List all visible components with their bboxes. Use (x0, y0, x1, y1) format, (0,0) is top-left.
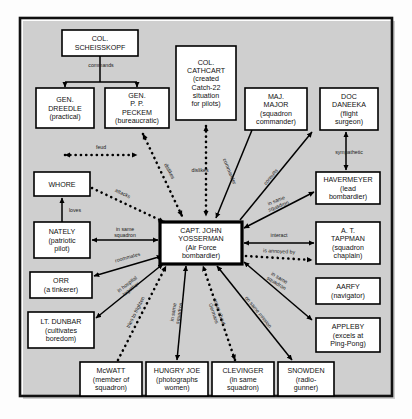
node-aarfy[interactable]: AARFY(navigator) (316, 278, 380, 304)
node-label-line: GEN. (56, 96, 73, 104)
node-snowden[interactable]: SNOWDEN(radio-gunner) (278, 362, 334, 396)
edge-label-line: dislikes (191, 167, 208, 173)
node-label-line: (member of (93, 376, 129, 384)
node-label-line: (squadron (332, 244, 364, 252)
node-label-line: (in same (229, 376, 256, 384)
node-yossarian[interactable]: CAPT. JOHNYOSSERMAN(Air Forcebombardier) (160, 222, 242, 264)
node-label-line: TAPPMAN (331, 235, 365, 243)
node-label-line: SNOWDEN (287, 367, 324, 375)
node-label-line: (created (193, 75, 219, 83)
node-label-line: (radio- (296, 376, 317, 384)
node-label-line: AARFY (336, 283, 360, 291)
node-label-line: YOSSERMAN (178, 235, 223, 243)
node-label-line: McWATT (97, 367, 126, 375)
node-label-line: DOC (341, 93, 357, 101)
node-label-line: surgeon) (335, 118, 363, 126)
node-label-line: bombardier) (182, 252, 220, 260)
node-clevinger[interactable]: CLEVINGER(in samesquadron) (212, 362, 274, 396)
node-label-line: MAJOR (264, 101, 289, 109)
node-label-line: (practical) (49, 113, 80, 121)
node-label-line: COL. (92, 35, 109, 43)
node-dunbar[interactable]: LT. DUNBAR(cultivatesboredom) (28, 312, 94, 348)
node-label-line: squadron) (227, 384, 259, 392)
node-label-line: DANEEKA (332, 101, 366, 109)
node-tappman[interactable]: A. T.TAPPMAN(squadronchaplain) (316, 222, 380, 264)
node-label-line: Catch-22 (192, 84, 221, 92)
node-label-line: bombardier) (329, 193, 367, 201)
node-label-line: DREEDLE (48, 105, 82, 113)
node-appleby[interactable]: APPLEBY(excels atPing-Pong) (316, 318, 380, 352)
node-label-line: (a tinkerer) (44, 286, 78, 294)
node-label-line: PECKEM (122, 109, 152, 117)
node-whore[interactable]: WHORE (34, 172, 90, 196)
node-hungryjoe[interactable]: HUNGRY JOE(photographswomen) (146, 362, 208, 396)
node-cathcart[interactable]: COL.CATHCART(createdCatch-22situationfor… (176, 46, 236, 120)
node-label-line: chaplain) (334, 252, 363, 260)
node-peckem[interactable]: GEN.P. P.PECKEM(bureaucratic) (105, 88, 169, 128)
node-label-line: (flight (340, 110, 357, 118)
edge-label-line: squadron (114, 232, 136, 238)
edge-label-line: loves (69, 207, 82, 213)
node-label-line: CLEVINGER (223, 367, 264, 375)
tree-edge-label: commands (88, 62, 114, 68)
node-label-line: GEN. (128, 92, 145, 100)
node-label-line: ORR (53, 277, 69, 285)
node-label-line: for pilots) (191, 100, 220, 108)
node-label-line: (photographs (156, 376, 198, 384)
edge-label-line: interact (270, 232, 288, 238)
node-havermeyer[interactable]: HAVERMEYER(leadbombardier) (316, 172, 380, 204)
node-label-line: MAJ. (268, 93, 284, 101)
node-label-line: commander) (256, 118, 296, 126)
node-label-line: (lead (340, 185, 356, 193)
node-dreedle[interactable]: GEN.DREEDLE(practical) (36, 88, 94, 128)
node-label-line: LT. DUNBAR (41, 318, 82, 326)
node-majmajor[interactable]: MAJ.MAJOR(squadroncommander) (245, 88, 307, 130)
node-label-line: COL. (198, 59, 215, 67)
node-label-line: HUNGRY JOE (154, 367, 201, 375)
node-label-line: Ping-Pong) (330, 340, 366, 348)
edge-label-feud: feud (96, 144, 106, 150)
node-label-line: women) (163, 384, 189, 392)
edge-label-line: feud (96, 144, 106, 150)
node-label-line: P. P. (130, 100, 144, 108)
node-label-line: A. T. (341, 227, 355, 235)
node-label-line: (patriotic (48, 237, 76, 245)
edge-label-line: sympathetic (335, 149, 363, 155)
node-scheisskopf[interactable]: COL.SCHEISSKOPF (62, 30, 138, 56)
node-orr[interactable]: ORR(a tinkerer) (30, 272, 92, 298)
node-label-line: WHORE (48, 181, 75, 189)
node-label-line: HAVERMEYER (323, 176, 372, 184)
node-mcwatt[interactable]: McWATT(member ofsquadron) (80, 362, 142, 396)
node-daneeka[interactable]: DOCDANEEKA(flightsurgeon) (320, 88, 378, 130)
node-label-line: (Air Force (185, 244, 216, 252)
node-label-line: pilot) (54, 245, 69, 253)
node-label-line: situation (193, 92, 219, 100)
node-label-line: NATELY (49, 228, 76, 236)
node-label-line: (bureaucratic) (115, 117, 159, 125)
diagram-canvas: commands feuddislikesdislikesattackslove… (0, 0, 412, 419)
edge-label-tappman-interact: interact (270, 232, 288, 238)
node-label-line: (squadron (260, 110, 292, 118)
edge-label-cathcart-dislikes: dislikes (191, 167, 208, 173)
node-label-line: (cultivates (45, 327, 77, 335)
edge-label-nately-squadron: in samesquadron (114, 226, 136, 238)
node-label-line: (navigator) (331, 292, 365, 300)
node-label-line: squadron) (95, 384, 127, 392)
node-label-line: boredom) (46, 335, 76, 343)
edge-label-loves: loves (69, 207, 82, 213)
node-label-line: CAPT. JOHN (180, 227, 221, 235)
edge-label-daneeka-sympathetic: sympathetic (335, 149, 363, 155)
node-label-line: (excels at (333, 332, 363, 340)
node-label-line: SCHEISSKOPF (75, 44, 126, 52)
node-label-line: APPLEBY (332, 323, 365, 331)
node-nately[interactable]: NATELY(patrioticpilot) (34, 222, 90, 258)
node-label-line: gunner) (294, 384, 318, 392)
character-relationship-diagram: commands feuddislikesdislikesattackslove… (0, 0, 412, 419)
node-label-line: CATHCART (187, 67, 226, 75)
